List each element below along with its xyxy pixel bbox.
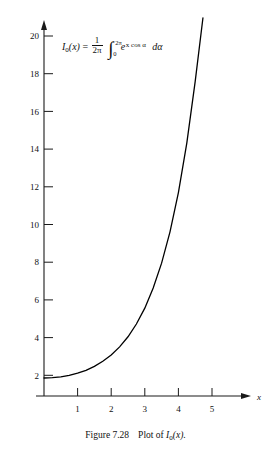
exp-power: x cos α bbox=[126, 41, 146, 49]
y-tick-label: 8 bbox=[35, 257, 40, 267]
y-tick-label: 12 bbox=[30, 182, 39, 192]
exponential-term: ex cos α bbox=[121, 41, 146, 52]
x-axis bbox=[36, 393, 251, 399]
caption-text: Plot of bbox=[138, 430, 164, 440]
integral-sign: ∫ 2π 0 bbox=[108, 42, 113, 56]
plot-canvas: 2 4 6 8 10 12 14 16 18 20 1 2 3 4 5 bbox=[0, 0, 271, 457]
x-tick-label: 5 bbox=[210, 404, 215, 414]
y-axis bbox=[41, 20, 47, 396]
formula-fraction: 1 2π bbox=[92, 36, 103, 56]
y-tick-label: 18 bbox=[30, 69, 40, 79]
y-tick-label: 6 bbox=[35, 295, 40, 305]
y-tick-marks bbox=[44, 36, 53, 375]
x-tick-label: 4 bbox=[176, 404, 181, 414]
caption-function-argument: (x) bbox=[173, 430, 184, 440]
y-tick-label: 4 bbox=[35, 333, 40, 343]
x-tick-marks bbox=[78, 388, 212, 396]
y-tick-label: 10 bbox=[30, 220, 40, 230]
caption-period: . bbox=[183, 430, 185, 440]
bessel-i0-curve bbox=[44, 18, 203, 378]
y-tick-label: 20 bbox=[30, 31, 40, 41]
y-tick-label: 14 bbox=[30, 144, 40, 154]
formula-fraction-denominator: 2π bbox=[92, 45, 103, 55]
figure-caption: Figure 7.28Plot of I0(x). bbox=[0, 430, 271, 442]
formula-equals: = bbox=[82, 41, 88, 52]
integral-lower-limit: 0 bbox=[113, 51, 116, 58]
integral-upper-limit: 2π bbox=[115, 40, 122, 47]
x-tick-label: 1 bbox=[75, 404, 80, 414]
y-tick-labels: 2 4 6 8 10 12 14 16 18 20 bbox=[30, 31, 40, 380]
formula-lhs-argument: (x) bbox=[69, 41, 80, 52]
caption-number: Figure 7.28 bbox=[85, 430, 129, 440]
formula-fraction-numerator: 1 bbox=[92, 36, 103, 45]
x-tick-label: 3 bbox=[143, 404, 148, 414]
x-tick-labels: 1 2 3 4 5 bbox=[75, 404, 214, 414]
y-tick-label: 2 bbox=[35, 371, 40, 381]
figure-container: 2 4 6 8 10 12 14 16 18 20 1 2 3 4 5 bbox=[0, 0, 271, 457]
y-tick-label: 16 bbox=[30, 107, 40, 117]
differential-term: dα bbox=[152, 41, 162, 52]
formula-annotation: I0(x) = 1 2π ∫ 2π 0 ex cos α dα bbox=[62, 36, 163, 57]
x-tick-label: 2 bbox=[109, 404, 114, 414]
x-axis-label: x bbox=[256, 392, 261, 402]
